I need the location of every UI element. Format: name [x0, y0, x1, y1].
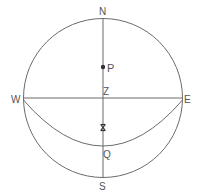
- pole-dot: [101, 65, 105, 69]
- label-pole: P: [107, 62, 114, 74]
- label-zenith: Z: [103, 86, 109, 97]
- label-q: Q: [103, 149, 111, 160]
- label-north: N: [99, 6, 106, 17]
- celestial-sphere-diagram: N P Z W E Q S: [0, 0, 200, 196]
- label-south: S: [99, 181, 106, 192]
- label-west: W: [11, 94, 21, 105]
- label-east: E: [184, 94, 191, 105]
